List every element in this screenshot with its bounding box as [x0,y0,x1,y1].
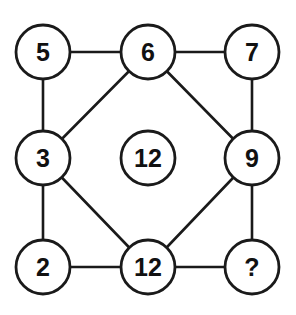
node-value: 12 [134,144,162,172]
unknown-value-question-mark: ? [244,253,259,281]
number-puzzle-diagram: 5 6 7 3 12 9 2 12 ? [0,0,296,315]
node-value: 5 [36,38,50,66]
node-bottom-right: ? [225,240,279,294]
node-value: 3 [36,144,50,172]
node-top-middle: 6 [121,25,175,79]
node-middle-left: 3 [16,131,70,185]
node-value: 12 [134,253,162,281]
node-value: 7 [245,38,259,66]
node-bottom-middle: 12 [121,240,175,294]
node-top-right: 7 [225,25,279,79]
node-top-left: 5 [16,25,70,79]
node-value: 6 [141,38,155,66]
node-value: 9 [245,144,259,172]
node-bottom-left: 2 [16,240,70,294]
node-center: 12 [121,131,175,185]
node-value: 2 [36,253,50,281]
node-middle-right: 9 [225,131,279,185]
